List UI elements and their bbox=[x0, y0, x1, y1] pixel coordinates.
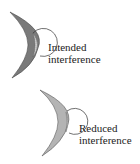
label-intended-line1: Intended bbox=[48, 41, 86, 53]
label-reduced-line2: interference bbox=[79, 134, 132, 146]
label-intended-line2: interference bbox=[48, 53, 101, 65]
label-reduced-line1: Reduced bbox=[79, 122, 117, 134]
